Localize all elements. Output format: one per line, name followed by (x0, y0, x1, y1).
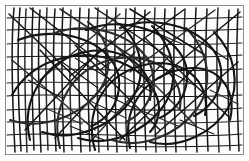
scribble-artwork (0, 0, 249, 161)
drawing-canvas (0, 0, 249, 161)
